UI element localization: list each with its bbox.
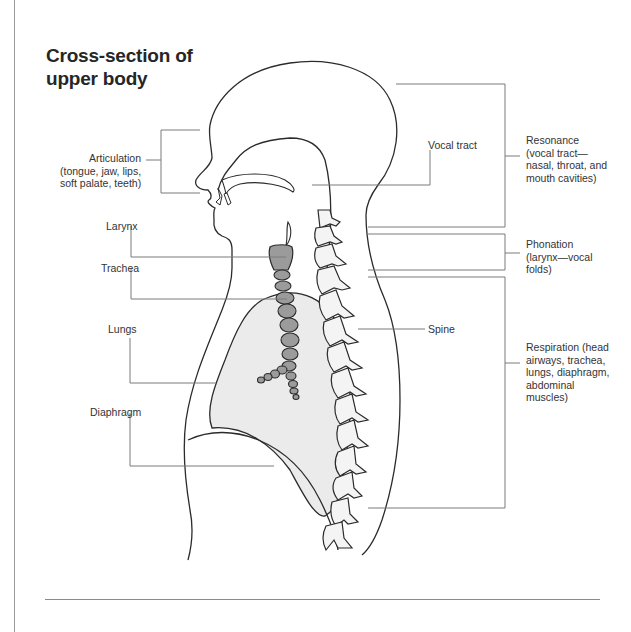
respiration-detail-3: abdominal <box>526 379 609 392</box>
label-spine: Spine <box>428 323 455 336</box>
articulation-bracket <box>161 130 200 193</box>
label-diaphragm: Diaphragm <box>90 406 141 419</box>
label-larynx: Larynx <box>106 220 138 233</box>
phonation-heading: Phonation <box>526 238 593 251</box>
phonation-detail-2: folds) <box>526 263 593 276</box>
resonance-bracket <box>368 84 505 227</box>
lungs-leader <box>130 338 216 383</box>
label-respiration: Respiration (head airways, trachea, lung… <box>526 341 609 404</box>
articulation-detail-1: (tongue, jaw, lips, <box>60 165 141 178</box>
vocal-tract-leader <box>312 150 430 185</box>
resonance-detail-1: (vocal tract— <box>526 147 607 160</box>
upper-body-illustration <box>0 0 631 632</box>
label-phonation: Phonation (larynx—vocal folds) <box>526 238 593 276</box>
phonation-detail-1: (larynx—vocal <box>526 251 593 264</box>
label-articulation: Articulation (tongue, jaw, lips, soft pa… <box>60 152 141 190</box>
body-outline-front <box>210 61 397 215</box>
palate-shape <box>222 174 294 194</box>
resonance-heading: Resonance <box>526 134 607 147</box>
respiration-heading: Respiration (head <box>526 341 609 354</box>
respiration-detail-2: lungs, diaphragm, <box>526 366 609 379</box>
label-vocal-tract: Vocal tract <box>428 139 477 152</box>
label-resonance: Resonance (vocal tract— nasal, throat, a… <box>526 134 607 184</box>
resonance-detail-2: nasal, throat, and <box>526 159 607 172</box>
bottom-divider <box>45 599 600 600</box>
label-lungs: Lungs <box>108 323 137 336</box>
articulation-heading: Articulation <box>60 152 141 165</box>
epiglottis-shape <box>286 222 291 246</box>
phonation-bracket <box>368 234 505 270</box>
back-outline <box>362 215 400 555</box>
label-trachea: Trachea <box>101 262 139 275</box>
trachea-leader <box>131 268 287 299</box>
articulation-detail-2: soft palate, teeth) <box>60 177 141 190</box>
respiration-detail-1: airways, trachea, <box>526 354 609 367</box>
larynx-leader <box>131 226 286 257</box>
respiration-detail-4: muscles) <box>526 391 609 404</box>
resonance-detail-3: mouth cavities) <box>526 172 607 185</box>
